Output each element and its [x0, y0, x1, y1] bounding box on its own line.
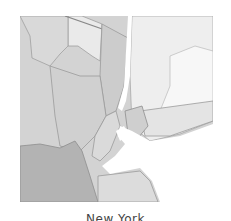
map-caption: New York — [0, 212, 231, 221]
map-thumbnail[interactable] — [20, 16, 213, 202]
map-graphic — [20, 16, 213, 202]
